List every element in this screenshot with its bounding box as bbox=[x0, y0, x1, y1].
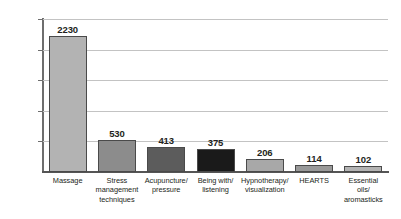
gridline-2000 bbox=[43, 50, 388, 51]
plot-area: 2230 530 413 375 206 114 102 bbox=[43, 19, 388, 172]
bar-being-with-listening bbox=[197, 149, 235, 172]
tick-1500 bbox=[38, 80, 43, 81]
tick-2500 bbox=[38, 19, 43, 20]
bar-stress-management-techniques bbox=[98, 140, 136, 172]
x-label-being-with-listening: Being with/listening bbox=[189, 176, 243, 195]
tick-500 bbox=[38, 141, 43, 142]
bar-massage bbox=[49, 36, 87, 172]
bar-chart: 2500 2000 1500 1000 500 0 2230 530 413 3… bbox=[0, 0, 401, 219]
bar-hearts bbox=[295, 165, 333, 172]
bar-acupuncture-pressure bbox=[147, 147, 185, 172]
tick-1000 bbox=[38, 111, 43, 112]
x-label-hearts: HEARTS bbox=[287, 176, 341, 185]
x-label-stress-management-techniques: Stressmanagementtechniques bbox=[90, 176, 144, 204]
bar-value-being-with-listening: 375 bbox=[186, 137, 246, 148]
bar-hypnotherapy-visualization bbox=[246, 159, 284, 172]
bar-value-massage: 2230 bbox=[38, 24, 98, 35]
x-label-acupuncture-pressure: Acupuncture/pressure bbox=[139, 176, 193, 195]
bar-essential-oils-aromasticks bbox=[344, 166, 382, 172]
gridline-2500 bbox=[43, 19, 388, 20]
gridline-1000 bbox=[43, 111, 388, 112]
tick-2000 bbox=[38, 50, 43, 51]
gridline-1500 bbox=[43, 80, 388, 81]
bar-value-essential-oils-aromasticks: 102 bbox=[333, 154, 393, 165]
x-label-massage: Massage bbox=[41, 176, 95, 185]
x-label-hypnotherapy-visualization: Hypnotherapy/visualization bbox=[238, 176, 292, 195]
x-label-essential-oils-aromasticks: Essentialoils/aromasticks bbox=[336, 176, 390, 204]
